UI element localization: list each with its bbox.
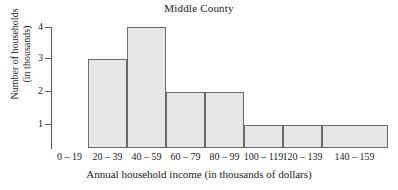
y-tick-mark-2 xyxy=(45,91,52,92)
y-tick-mark-3 xyxy=(45,58,52,59)
x-axis-title: Annual household income (in thousands of… xyxy=(0,168,398,180)
y-tick-label-4: 4 xyxy=(29,22,43,32)
x-tick-label-140-159: 140 – 159 xyxy=(324,151,385,162)
bar-80-99[interactable] xyxy=(205,92,244,148)
bar-20-39[interactable] xyxy=(88,59,127,148)
y-tick-label-3: 3 xyxy=(29,53,43,63)
bar-140-159[interactable] xyxy=(322,125,388,148)
chart-title: Middle County xyxy=(0,2,398,14)
y-tick-mark-4 xyxy=(45,27,52,28)
y-axis-title-line-1: Number of households xyxy=(9,0,21,124)
y-axis-line xyxy=(51,27,52,149)
y-tick-mark-1 xyxy=(45,124,52,125)
histogram-figure: Middle County Number of households (in t… xyxy=(0,0,398,190)
y-tick-label-1: 1 xyxy=(29,119,43,129)
y-tick-label-2: 2 xyxy=(29,86,43,96)
bar-100-119[interactable] xyxy=(244,125,283,148)
bar-120-139[interactable] xyxy=(283,125,322,148)
bar-60-79[interactable] xyxy=(166,92,205,148)
bar-40-59[interactable] xyxy=(127,27,166,148)
